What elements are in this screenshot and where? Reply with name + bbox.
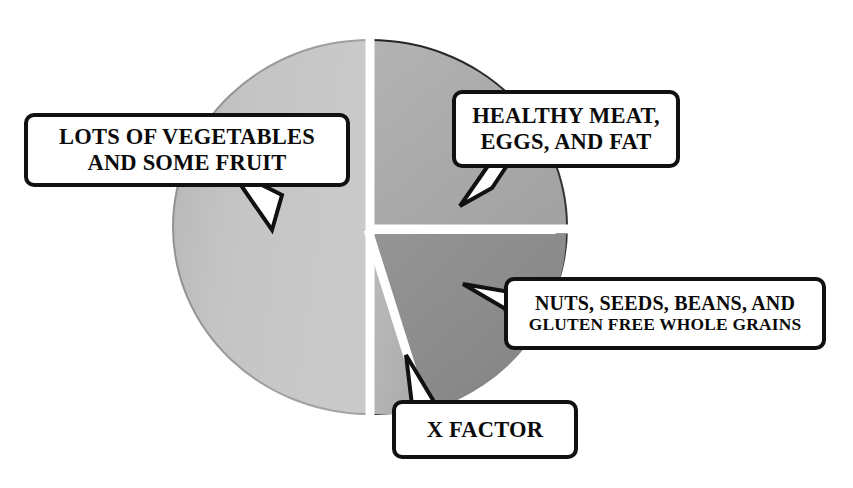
callout-vegetables-line2: AND SOME FRUIT bbox=[87, 150, 286, 176]
callout-nuts-line2: GLUTEN FREE WHOLE GRAINS bbox=[529, 315, 802, 335]
callout-nuts[interactable]: NUTS, SEEDS, BEANS, AND GLUTEN FREE WHOL… bbox=[504, 277, 826, 350]
callout-xfactor-line1: X FACTOR bbox=[427, 417, 543, 443]
callout-vegetables-line1: LOTS OF VEGETABLES bbox=[59, 124, 315, 150]
callout-vegetables[interactable]: LOTS OF VEGETABLES AND SOME FRUIT bbox=[24, 113, 350, 187]
callout-nuts-line1: NUTS, SEEDS, BEANS, AND bbox=[535, 292, 795, 315]
chart-canvas: LOTS OF VEGETABLES AND SOME FRUIT HEALTH… bbox=[0, 0, 853, 488]
callout-meat-line2: EGGS, AND FAT bbox=[480, 129, 651, 155]
callout-meat[interactable]: HEALTHY MEAT, EGGS, AND FAT bbox=[452, 90, 680, 168]
callout-meat-line1: HEALTHY MEAT, bbox=[472, 103, 660, 129]
callout-xfactor[interactable]: X FACTOR bbox=[392, 400, 578, 459]
pie-slice-vegetables[interactable] bbox=[174, 41, 370, 413]
